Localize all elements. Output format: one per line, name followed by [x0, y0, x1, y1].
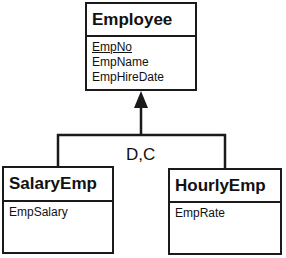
attribute-empsalary: EmpSalary: [9, 205, 112, 220]
class-salaryemp: SalaryEmp EmpSalary: [2, 166, 114, 254]
class-title: Employee: [87, 4, 195, 37]
attribute-empname: EmpName: [92, 55, 195, 70]
class-title: SalaryEmp: [4, 168, 112, 202]
attribute-list: EmpRate: [170, 203, 280, 221]
class-title: HourlyEmp: [170, 170, 280, 203]
generalization-arrowhead-icon: [134, 91, 148, 108]
attribute-emphiredate: EmpHireDate: [92, 70, 195, 85]
constraint-label: D,C: [126, 145, 155, 165]
class-hourlyemp: HourlyEmp EmpRate: [168, 168, 282, 255]
class-employee: Employee EmpNo EmpName EmpHireDate: [85, 2, 197, 91]
attribute-empno: EmpNo: [92, 40, 195, 55]
attribute-list: EmpNo EmpName EmpHireDate: [87, 37, 195, 85]
attribute-list: EmpSalary: [4, 202, 112, 220]
attribute-emprate: EmpRate: [175, 206, 280, 221]
